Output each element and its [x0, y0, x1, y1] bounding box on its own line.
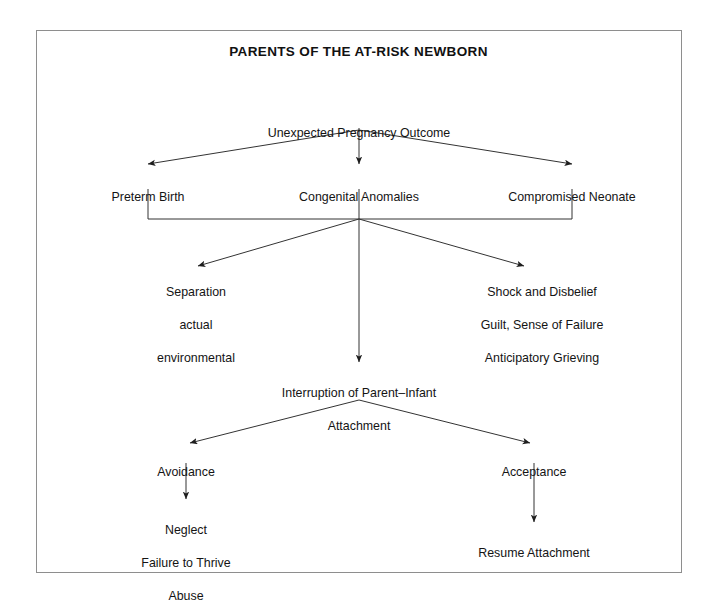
node-preterm-birth: Preterm Birth: [58, 172, 238, 222]
figure-title: PARENTS OF THE AT-RISK NEWBORN: [0, 44, 717, 59]
node-interruption-of-parent-infant-attachment: Interruption of Parent–Infant Attachment: [229, 368, 489, 451]
node-acceptance-label: Acceptance: [454, 464, 614, 481]
node-shock-line-3: Anticipatory Grieving: [442, 350, 642, 367]
node-separation-line-2: actual: [106, 317, 286, 334]
node-preterm-label: Preterm Birth: [58, 189, 238, 206]
node-separation: Separation actual environmental: [106, 267, 286, 383]
node-neglect-line-3: Abuse: [96, 588, 276, 604]
node-root-label: Unexpected Pregnancy Outcome: [209, 125, 509, 142]
node-separation-line-3: environmental: [106, 350, 286, 367]
node-neglect: Neglect Failure to Thrive Abuse: [96, 505, 276, 604]
node-avoidance-label: Avoidance: [106, 464, 266, 481]
node-acceptance: Acceptance: [454, 447, 614, 497]
node-separation-line-1: Separation: [106, 284, 286, 301]
node-neglect-line-1: Neglect: [96, 522, 276, 539]
node-neglect-line-2: Failure to Thrive: [96, 555, 276, 572]
node-congenital-label: Congenital Anomalies: [269, 189, 449, 206]
node-compromised-neonate: Compromised Neonate: [482, 172, 662, 222]
node-congenital-anomalies: Congenital Anomalies: [269, 172, 449, 222]
figure-root: PARENTS OF THE AT-RISK NEWBORN: [0, 0, 717, 604]
node-avoidance: Avoidance: [106, 447, 266, 497]
node-resume-attachment: Resume Attachment: [444, 528, 624, 578]
node-shock-and-disbelief: Shock and Disbelief Guilt, Sense of Fail…: [442, 267, 642, 383]
node-interruption-line-2: Attachment: [229, 418, 489, 435]
node-compromised-label: Compromised Neonate: [482, 189, 662, 206]
node-unexpected-pregnancy-outcome: Unexpected Pregnancy Outcome: [209, 108, 509, 158]
node-interruption-line-1: Interruption of Parent–Infant: [229, 385, 489, 402]
node-shock-line-2: Guilt, Sense of Failure: [442, 317, 642, 334]
node-shock-line-1: Shock and Disbelief: [442, 284, 642, 301]
node-resume-label: Resume Attachment: [444, 545, 624, 562]
